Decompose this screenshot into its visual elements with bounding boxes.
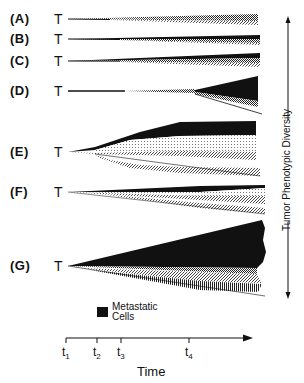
clone-bands-g xyxy=(68,220,266,296)
metastatic-legend-swatch xyxy=(97,307,108,317)
arrow-down-icon xyxy=(286,292,291,299)
diversity-diagram xyxy=(0,0,304,383)
metastatic-legend-label: Metastatic Cells xyxy=(112,302,158,322)
clone-bands-a xyxy=(68,14,258,25)
tick-t2: t2 xyxy=(93,345,101,361)
tick-t1: t1 xyxy=(62,345,70,361)
time-axis-label: Time xyxy=(137,364,165,379)
tick-t4: t4 xyxy=(185,345,193,361)
clone-bands-f xyxy=(68,185,265,214)
legend-line-2: Cells xyxy=(112,312,158,322)
diversity-axis-label: Tumor Phenotypic Diversity xyxy=(281,109,292,231)
clone-bands-c xyxy=(68,53,260,67)
clone-bands-d xyxy=(68,76,262,114)
clone-bands-b xyxy=(68,35,260,45)
time-axis xyxy=(66,335,253,344)
arrow-up-icon xyxy=(286,16,291,23)
arrow-right-icon xyxy=(243,335,253,342)
clone-bands-e xyxy=(68,121,260,176)
tick-t3: t3 xyxy=(117,345,125,361)
